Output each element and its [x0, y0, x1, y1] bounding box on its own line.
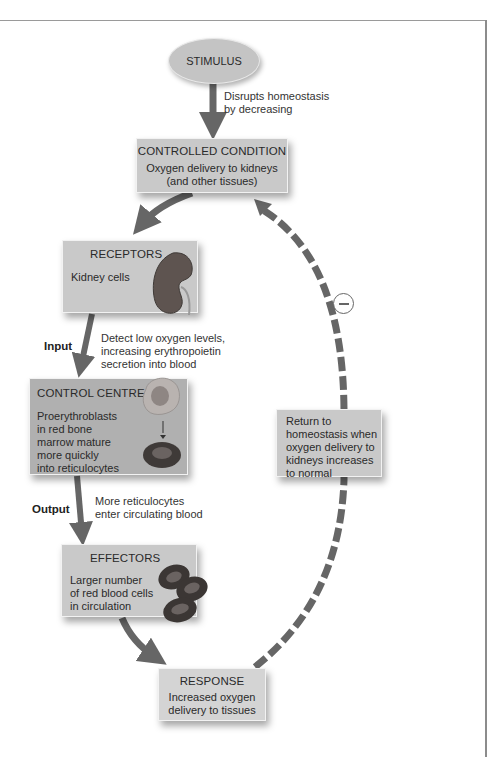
controlled-condition-line: Oxygen delivery to kidneys	[137, 162, 287, 175]
output-label: Output	[32, 503, 70, 516]
effectors-line: in circulation	[70, 600, 153, 613]
arrow-output	[77, 476, 82, 534]
control-centre-body: Proerythroblasts in red bone marrow matu…	[37, 410, 119, 475]
response-line: Increased oxygen	[159, 691, 265, 704]
proerythroblast-to-rbc-icon	[138, 375, 182, 473]
input-description-line: increasing erythropoietin	[101, 345, 225, 358]
controlled-condition-title: CONTROLLED CONDITION	[137, 145, 287, 157]
stimulus-arrow-label-line: Disrupts homeostasis	[224, 90, 329, 103]
arrow-condition-to-receptors	[142, 193, 192, 224]
input-description-line: Detect low oxygen levels,	[101, 332, 225, 345]
stimulus-arrow-label-line: by decreasing	[224, 103, 329, 116]
arrow-input	[81, 314, 92, 366]
effectors-line: Larger number	[70, 574, 153, 587]
control-centre-line: in red bone	[37, 423, 119, 436]
receptors-box: RECEPTORS Kidney cells	[62, 240, 198, 313]
effectors-title: EFFECTORS	[90, 552, 160, 564]
effectors-box: EFFECTORS Larger number of red blood cel…	[61, 544, 197, 617]
controlled-condition-line: (and other tissues)	[137, 175, 287, 188]
control-centre-line: more quickly	[37, 449, 119, 462]
stimulus-node: STIMULUS	[168, 38, 260, 84]
arrow-effectors-to-response	[122, 618, 155, 657]
input-description-line: secretion into blood	[101, 358, 225, 371]
receptors-body: Kidney cells	[71, 271, 130, 284]
stimulus-label: STIMULUS	[186, 55, 242, 67]
controlled-condition-box: CONTROLLED CONDITION Oxygen delivery to …	[136, 138, 288, 193]
control-centre-line: Proerythroblasts	[37, 410, 119, 423]
response-line: delivery to tissues	[159, 704, 265, 717]
stimulus-arrow-label: Disrupts homeostasis by decreasing	[224, 90, 329, 116]
negative-feedback-minus-icon	[333, 293, 354, 314]
control-centre-line: into reticulocytes	[37, 462, 119, 475]
return-line: Return to	[286, 415, 381, 428]
return-line: kidneys increases	[286, 454, 381, 467]
return-line: to normal	[286, 467, 381, 480]
control-centre-box: CONTROL CENTRE Proerythroblasts in red b…	[29, 378, 188, 475]
return-line: oxygen delivery to	[286, 441, 381, 454]
effectors-line: of red blood cells	[70, 587, 153, 600]
output-description-line: enter circulating blood	[95, 508, 203, 521]
red-blood-cells-icon	[156, 563, 212, 625]
output-description: More reticulocytes enter circulating blo…	[95, 495, 203, 521]
control-centre-title: CONTROL CENTRE	[37, 387, 145, 399]
effectors-body: Larger number of red blood cells in circ…	[70, 574, 153, 613]
response-box: RESPONSE Increased oxygen delivery to ti…	[158, 668, 266, 721]
return-to-homeostasis-box: Return to homeostasis when oxygen delive…	[276, 409, 382, 477]
return-line: homeostasis when	[286, 428, 381, 441]
input-label: Input	[44, 340, 72, 353]
control-centre-line: marrow mature	[37, 436, 119, 449]
kidney-icon	[151, 251, 197, 319]
response-title: RESPONSE	[159, 675, 265, 687]
input-description: Detect low oxygen levels, increasing ery…	[101, 332, 225, 371]
output-description-line: More reticulocytes	[95, 495, 203, 508]
